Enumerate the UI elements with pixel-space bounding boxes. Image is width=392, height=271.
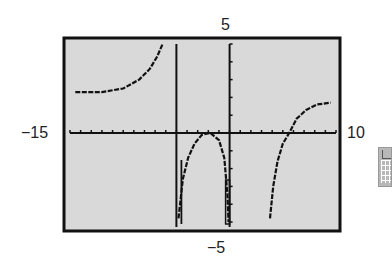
pen-glyph	[382, 150, 391, 159]
table-grid-glyph	[381, 160, 391, 183]
graph-plot	[0, 0, 392, 271]
y-min-label: −5	[207, 240, 225, 256]
x-min-label: −15	[21, 125, 48, 141]
y-max-label: 5	[221, 17, 230, 33]
x-max-label: 10	[347, 125, 365, 141]
graph-table-icon	[378, 147, 392, 187]
